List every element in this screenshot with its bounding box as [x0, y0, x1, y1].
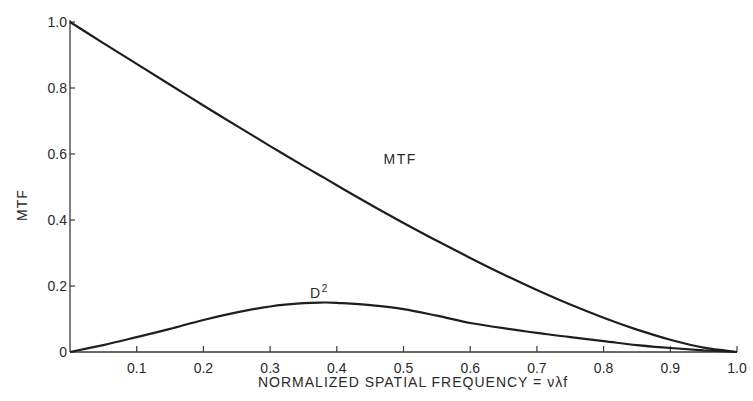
mtf-curve — [70, 22, 737, 352]
d-squared-base: D — [310, 285, 322, 301]
y-tick-label: 0.4 — [48, 212, 68, 228]
d-squared-superscript: 2 — [322, 283, 329, 294]
x-tick-label: 0.2 — [194, 360, 214, 376]
y-axis-title: MTF — [14, 189, 30, 221]
axes — [70, 20, 737, 352]
y-tick-label: 0.8 — [48, 80, 68, 96]
x-ticks: 0.10.20.30.40.50.60.70.80.91.0 — [127, 346, 747, 376]
d-squared-curve — [70, 302, 737, 352]
d-squared-curve-label: D2 — [310, 283, 329, 301]
y-tick-label: 0 — [59, 344, 67, 360]
x-tick-label: 0.1 — [127, 360, 147, 376]
y-tick-label: 0.2 — [48, 278, 68, 294]
x-axis-title: NORMALIZED SPATIAL FREQUENCY = νλf — [258, 374, 568, 390]
y-tick-label: 1.0 — [48, 14, 68, 30]
y-ticks: 00.20.40.60.81.0 — [48, 14, 75, 360]
mtf-curve-label: MTF — [383, 151, 416, 167]
x-tick-label: 0.9 — [661, 360, 681, 376]
mtf-chart: 00.20.40.60.81.0 0.10.20.30.40.50.60.70.… — [0, 0, 753, 401]
x-tick-label: 1.0 — [727, 360, 747, 376]
curves — [70, 22, 737, 352]
y-tick-label: 0.6 — [48, 146, 68, 162]
x-tick-label: 0.8 — [594, 360, 614, 376]
